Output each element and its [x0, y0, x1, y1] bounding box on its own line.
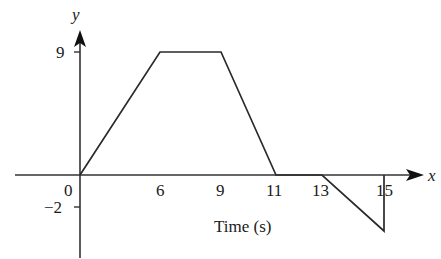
chart-canvas: y x 9 −2 0 6 9 11 13 15 Time (s) [0, 0, 441, 259]
xtick-9-label: 9 [216, 181, 225, 200]
graph-line [80, 52, 384, 231]
xtick-13-label: 13 [312, 181, 329, 200]
xtick-0-label: 0 [64, 181, 73, 200]
xtick-11-label: 11 [266, 181, 282, 200]
x-axis-title: Time (s) [214, 217, 271, 236]
xtick-15-label: 15 [376, 181, 393, 200]
ytick-neg2-label: −2 [44, 198, 62, 217]
x-axis-symbol: x [427, 166, 436, 185]
ytick-9-label: 9 [56, 43, 65, 62]
y-axis-symbol: y [70, 5, 80, 24]
xtick-6-label: 6 [156, 181, 165, 200]
